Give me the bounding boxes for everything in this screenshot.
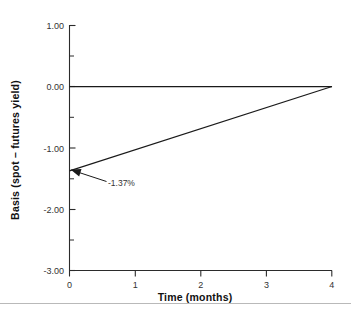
x-axis-title: Time (months)	[158, 291, 233, 303]
plot-area	[69, 25, 332, 271]
x-tick-label-4: 4	[329, 280, 334, 290]
x-tick-label-3: 3	[264, 280, 269, 290]
x-tick-label-0: 0	[67, 280, 72, 290]
chart-figure: 1.00 0.00 -1.00 -2.00 -3.00 0 1 2 3 4 -1…	[0, 0, 351, 316]
x-tick-label-2: 2	[198, 280, 203, 290]
annotation-label: -1.37%	[108, 178, 135, 188]
y-tick-label-3: -1.00	[43, 144, 64, 154]
y-tick-label-5: -3.00	[43, 266, 64, 276]
y-tick-label-1: 1.00	[46, 21, 64, 31]
y-axis-title: Basis (spot – futures yield)	[9, 80, 21, 220]
footer-divider	[0, 303, 351, 304]
y-tick-label-4: -2.00	[43, 205, 64, 215]
y-tick-label-2: 0.00	[46, 82, 64, 92]
basis-convergence-chart: 1.00 0.00 -1.00 -2.00 -3.00 0 1 2 3 4 -1…	[0, 0, 351, 316]
x-tick-label-1: 1	[133, 280, 138, 290]
